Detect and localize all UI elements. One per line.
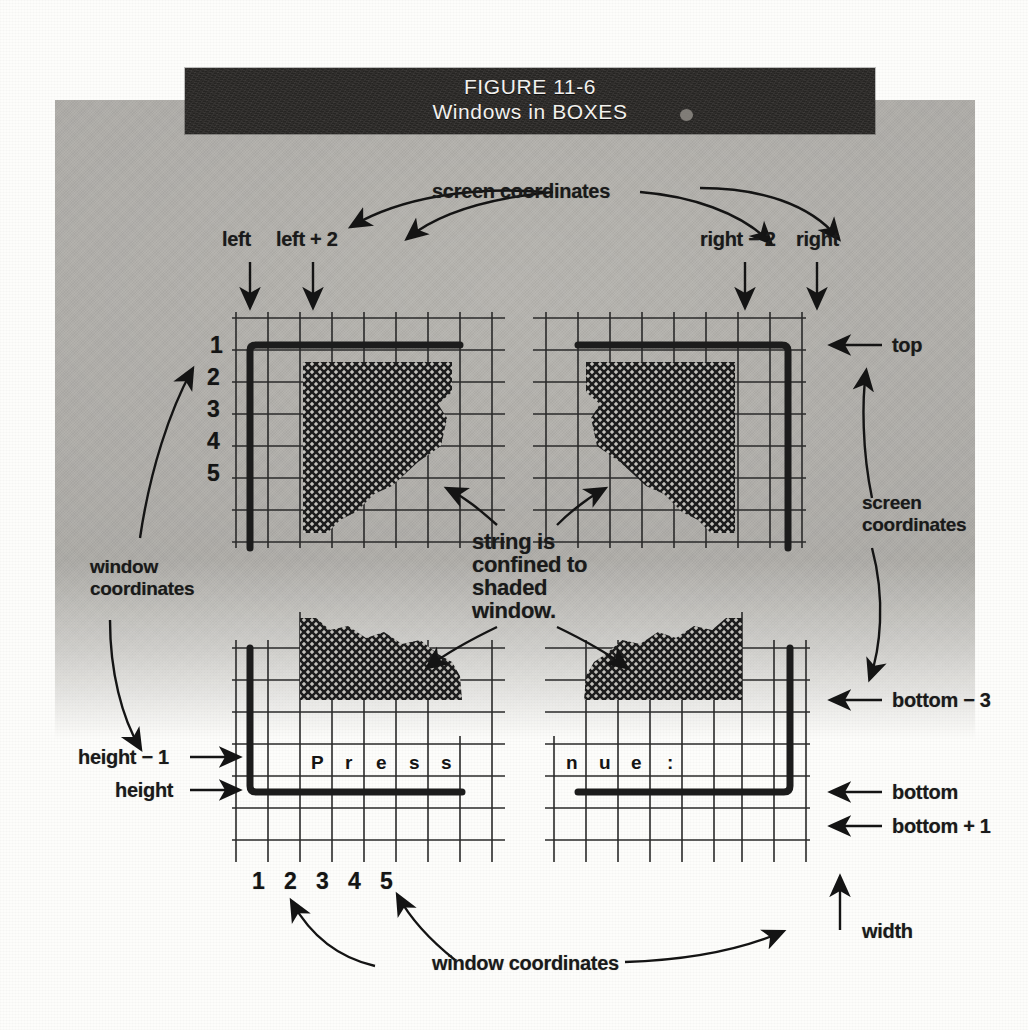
label-left: left	[222, 228, 251, 251]
callout-line-4: window.	[472, 599, 556, 622]
label-right-minus-2: right − 2	[700, 228, 776, 251]
label-window-coordinates-bottom: window coordinates	[432, 952, 619, 975]
row-number: 2	[207, 364, 220, 391]
row-number: 5	[207, 460, 220, 487]
grid-top-right	[533, 312, 806, 548]
label-window-coordinates-left-line2: coordinates	[90, 578, 194, 600]
string-cell: e	[376, 752, 387, 774]
label-bottom-minus-3: bottom − 3	[892, 689, 991, 712]
callout-line-3: shaded	[472, 576, 547, 599]
string-cell: r	[345, 752, 352, 774]
figure-page: FIGURE 11-6 Windows in BOXES	[0, 0, 1028, 1030]
label-height-minus-1: height − 1	[78, 746, 169, 769]
row-number: 4	[207, 428, 220, 455]
column-number: 5	[380, 868, 393, 895]
callout-line-1: string is	[472, 530, 555, 553]
label-top: top	[892, 334, 922, 357]
string-cell: s	[441, 752, 452, 774]
label-bottom: bottom	[892, 781, 958, 804]
string-cell: :	[667, 752, 673, 774]
grid-top-left	[232, 312, 505, 548]
label-window-coordinates-left-line1: window	[90, 556, 158, 578]
string-cell: s	[409, 752, 420, 774]
callout-line-2: confined to	[472, 553, 587, 576]
row-number: 3	[207, 396, 220, 423]
label-right: right	[796, 228, 839, 251]
label-bottom-plus-1: bottom + 1	[892, 815, 991, 838]
right-side-marker-arrows	[832, 345, 882, 826]
label-screen-coordinates-right-line2: coordinates	[862, 514, 966, 536]
column-number: 4	[348, 868, 361, 895]
label-screen-coordinates-right-line1: screen	[862, 492, 921, 514]
column-number: 3	[316, 868, 329, 895]
shaded-window-region-bottom-right	[578, 616, 742, 702]
column-number: 2	[284, 868, 297, 895]
label-height: height	[115, 779, 173, 802]
label-screen-coordinates-top: screen coordinates	[432, 180, 610, 203]
string-cell: u	[599, 752, 611, 774]
grid-bottom-left	[232, 612, 505, 862]
string-cell: e	[631, 752, 642, 774]
row-number: 1	[210, 332, 223, 359]
label-left-plus-2: left + 2	[276, 228, 338, 251]
string-cell: n	[566, 752, 578, 774]
label-width: width	[862, 920, 913, 943]
column-number: 1	[252, 868, 265, 895]
string-cell: P	[311, 752, 324, 774]
grid-bottom-right	[545, 612, 810, 862]
